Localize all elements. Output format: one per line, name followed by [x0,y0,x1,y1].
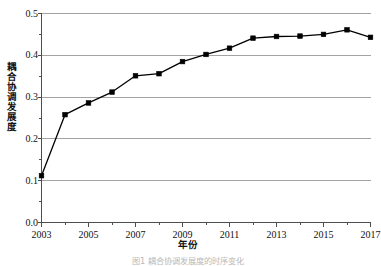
x-tick-label: 2013 [267,230,287,240]
x-tick-label: 2015 [314,230,334,240]
x-tick-label: 2017 [361,230,381,240]
x-tick-label: 2003 [32,230,52,240]
x-axis-title: 年份 [0,239,376,250]
figure-caption: 图1 耦合协调发展度的时序变化 [0,256,376,266]
x-tick-label: 2005 [79,230,99,240]
x-tick-label: 2007 [126,230,146,240]
x-tick-label: 2009 [173,230,193,240]
x-tick-label: 2011 [220,230,240,240]
